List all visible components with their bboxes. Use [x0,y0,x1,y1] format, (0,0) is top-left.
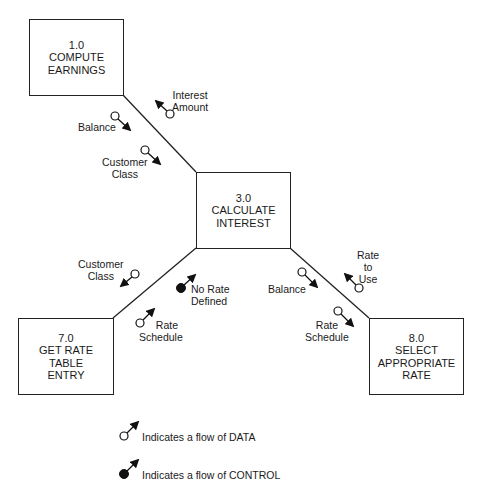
couple-label-rate-schedule-8: RateSchedule [305,319,349,343]
module-number: 1.0 [69,39,84,52]
module-name-line: GET RATE [39,344,93,357]
module-select-appropriate-rate: 8.0 SELECT APPROPRIATE RATE [369,318,464,395]
module-name-line: TABLE [49,357,83,370]
data-couple-icon [121,270,139,286]
legend-control-icon [120,460,139,479]
module-number: 7.0 [58,332,73,345]
module-name-line: COMPUTE [49,51,104,64]
legend-data-text: Indicates a flow of DATA [142,431,255,443]
legend-data-icon [120,422,138,440]
legend-control-text: Indicates a flow of CONTROL [142,469,280,481]
couple-label-customer-class: CustomerClass [102,156,148,180]
module-name-line: ENTRY [47,369,84,382]
module-name-line: APPROPRIATE [378,357,455,370]
couple-label-rate-to-use: RatetoUse [357,249,379,285]
module-name-line: RATE [402,369,431,382]
module-name-line: INTEREST [216,217,270,230]
couple-label-interest-amount: InterestAmount [172,89,208,113]
module-number: 8.0 [409,332,424,345]
module-name-line: EARNINGS [48,64,105,77]
module-name-line: CALCULATE [212,204,276,217]
couple-label-no-rate-defined: No RateDefined [191,283,230,307]
module-number: 3.0 [236,192,251,205]
couple-label-balance-8: Balance [268,283,306,295]
module-get-rate-table-entry: 7.0 GET RATE TABLE ENTRY [18,318,114,395]
couple-label-rate-schedule-7: RateSchedule [139,319,183,343]
couple-label-balance: Balance [78,121,116,133]
couple-label-customer-class-7: CustomerClass [78,258,124,282]
module-compute-earnings: 1.0 COMPUTE EARNINGS [29,19,124,96]
module-name-line: SELECT [395,344,438,357]
module-calculate-interest: 3.0 CALCULATE INTEREST [196,172,291,249]
